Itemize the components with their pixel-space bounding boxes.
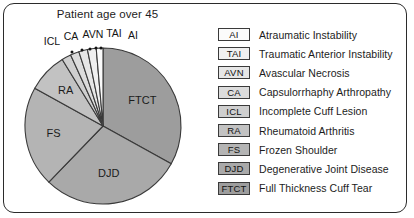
callout-label-tai: TAI xyxy=(106,27,122,39)
pie-svg: ICLCAAVNTAIAI FTCTDJDFSRA xyxy=(0,0,215,218)
legend-row-avn: AVNAvascular Necrosis xyxy=(218,63,408,82)
legend-row-ftct: FTCTFull Thickness Cuff Tear xyxy=(218,179,408,198)
legend-label-djd: Degenerative Joint Disease xyxy=(259,163,389,175)
pie-slice-label-djd: DJD xyxy=(98,167,119,179)
legend-row-tai: TAITraumatic Anterior Instability xyxy=(218,44,408,63)
pie-chart-panel: Patient age over 45 ICLCAAVNTAIAI FTCTDJ… xyxy=(0,0,215,218)
legend-label-avn: Avascular Necrosis xyxy=(259,67,350,79)
legend-label-fs: Frozen Shoulder xyxy=(259,144,337,156)
legend-row-icl: ICLIncomplete Cuff Lesion xyxy=(218,102,408,121)
legend-label-tai: Traumatic Anterior Instability xyxy=(259,48,393,60)
legend-label-ra: Rheumatoid Arthritis xyxy=(259,125,355,137)
callout-dot-icl xyxy=(71,51,74,54)
callout-dot-ai xyxy=(100,47,103,50)
legend-label-ca: Capsulorrhaphy Arthropathy xyxy=(259,86,391,98)
callout-dot-tai xyxy=(95,47,98,50)
legend-swatch-fs: FS xyxy=(218,143,250,156)
legend-swatch-ftct: FTCT xyxy=(218,182,250,195)
callout-label-ca: CA xyxy=(64,30,79,42)
legend-row-ra: RARheumatoid Arthritis xyxy=(218,121,408,140)
legend-label-icl: Incomplete Cuff Lesion xyxy=(259,105,367,117)
legend-swatch-ra: RA xyxy=(218,124,250,137)
legend-swatch-icl: ICL xyxy=(218,105,250,118)
legend-label-ftct: Full Thickness Cuff Tear xyxy=(259,182,372,194)
callout-label-avn: AVN xyxy=(83,28,104,40)
callout-label-ai: AI xyxy=(128,29,138,41)
legend-swatch-avn: AVN xyxy=(218,66,250,79)
callout-dot-avn xyxy=(89,48,92,51)
legend-label-ai: Atraumatic Instability xyxy=(259,29,357,41)
pie-slice-label-ra: RA xyxy=(58,84,74,96)
legend-row-fs: FSFrozen Shoulder xyxy=(218,140,408,159)
pie-chart: ICLCAAVNTAIAI FTCTDJDFSRA xyxy=(0,0,215,218)
callout-label-icl: ICL xyxy=(44,35,61,47)
legend-swatch-ca: CA xyxy=(218,86,250,99)
legend: AIAtraumatic InstabilityTAITraumatic Ant… xyxy=(218,25,408,198)
legend-row-djd: DJDDegenerative Joint Disease xyxy=(218,159,408,178)
pie-slices-group xyxy=(25,48,181,204)
pie-slice-label-ftct: FTCT xyxy=(128,94,156,106)
pie-callouts-group: ICLCAAVNTAIAI xyxy=(44,27,138,54)
callout-dot-ca xyxy=(81,49,84,52)
legend-row-ai: AIAtraumatic Instability xyxy=(218,25,408,44)
legend-swatch-djd: DJD xyxy=(218,162,250,175)
legend-swatch-tai: TAI xyxy=(218,47,250,60)
figure-container: Patient age over 45 ICLCAAVNTAIAI FTCTDJ… xyxy=(0,0,414,218)
legend-row-ca: CACapsulorrhaphy Arthropathy xyxy=(218,83,408,102)
legend-swatch-ai: AI xyxy=(218,28,250,41)
pie-slice-label-fs: FS xyxy=(46,127,60,139)
